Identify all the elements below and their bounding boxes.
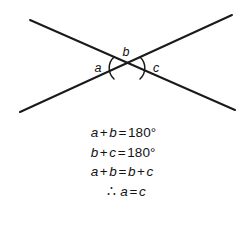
- equation-token-op: =: [117, 125, 128, 140]
- angle-label-c: c: [153, 61, 160, 75]
- angle-label-b: b: [123, 45, 130, 59]
- equation-token-num: 180°: [128, 125, 156, 140]
- equation-token-op: =: [116, 145, 127, 160]
- equation-token-var: b: [109, 164, 117, 179]
- equation-token-op: =: [128, 184, 139, 199]
- angle-label-a: a: [95, 61, 102, 75]
- equation-token-var: b: [109, 125, 117, 140]
- equation-token-op: +: [98, 164, 109, 179]
- equation-token-op: +: [136, 164, 147, 179]
- equation-eq-3: a+b=b+c: [91, 162, 154, 182]
- equation-token-op: +: [98, 125, 109, 140]
- equation-block: a+b=180°b+c=180°a+b=b+c∴a=c: [91, 123, 157, 201]
- line-down-right: [30, 20, 235, 110]
- equation-eq-4: ∴a=c: [101, 182, 146, 202]
- equation-list: a+b=180°b+c=180°a+b=b+c∴a=c: [0, 123, 247, 201]
- equation-token-therefore: ∴: [107, 184, 120, 199]
- equation-token-op: =: [117, 164, 128, 179]
- equation-eq-1: a+b=180°: [91, 123, 157, 143]
- left-angle-arc: [109, 57, 114, 79]
- equation-token-var: b: [128, 164, 136, 179]
- equation-token-op: +: [98, 145, 109, 160]
- vertical-angles-diagram: a b c: [0, 0, 247, 120]
- equation-token-num: 180°: [127, 145, 155, 160]
- equation-token-var: c: [139, 184, 146, 199]
- equation-token-var: c: [147, 164, 154, 179]
- equation-eq-2: b+c=180°: [91, 143, 156, 163]
- equation-token-var: a: [120, 184, 128, 199]
